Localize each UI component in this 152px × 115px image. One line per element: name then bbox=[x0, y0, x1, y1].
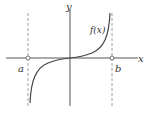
graph-canvas: y x f(x) a b bbox=[0, 0, 152, 115]
open-point-a bbox=[26, 56, 30, 60]
x-axis-label: x bbox=[138, 53, 144, 64]
bound-label-a: a bbox=[18, 63, 24, 74]
function-graph-diagram: y x f(x) a b bbox=[0, 0, 152, 115]
y-axis-label: y bbox=[65, 1, 72, 12]
function-label: f(x) bbox=[89, 25, 106, 35]
open-point-b bbox=[110, 56, 114, 60]
bound-label-b: b bbox=[115, 63, 121, 74]
